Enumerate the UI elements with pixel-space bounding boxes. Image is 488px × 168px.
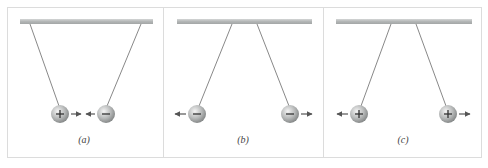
- support-bar: [177, 19, 312, 24]
- ball-negative: [97, 105, 115, 123]
- support-bar: [336, 19, 472, 24]
- panel-label-b: (b): [223, 134, 263, 145]
- ball-positive: [439, 105, 457, 123]
- ball-positive: [350, 105, 368, 123]
- ball-negative: [281, 105, 299, 123]
- support-bar: [20, 19, 153, 24]
- panel-label-a: (a): [64, 134, 104, 145]
- panel-label-c: (c): [383, 134, 423, 145]
- ball-positive: [51, 105, 69, 123]
- ball-negative: [188, 105, 206, 123]
